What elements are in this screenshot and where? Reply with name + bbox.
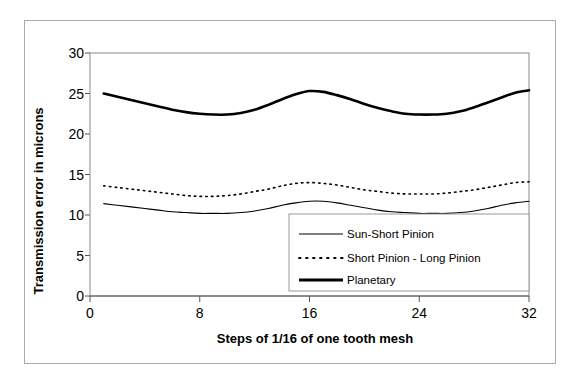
x-tick-label: 24 [411,305,427,321]
legend-label-sun-short-pinion: Sun-Short Pinion [347,228,434,240]
x-tick-label: 0 [86,305,94,321]
x-tick-label: 32 [521,305,537,321]
y-tick-label: 15 [68,167,84,183]
y-tick-marks [85,53,90,296]
y-tick-label: 20 [68,126,84,142]
y-tick-label: 5 [76,248,84,264]
series-line-planetary [104,90,529,114]
x-tick-labels: 0 8 16 24 32 [86,305,537,321]
y-tick-label: 30 [68,45,84,61]
figure-frame: Transmission error in microns Steps of 1… [24,20,556,364]
x-tick-label: 16 [302,305,318,321]
y-tick-label: 25 [68,86,84,102]
y-tick-label: 10 [68,207,84,223]
series-line-short-pinion-long-pinion [104,182,529,197]
x-tick-label: 8 [196,305,204,321]
y-tick-labels: 30 25 20 15 10 5 0 [68,45,84,304]
x-tick-marks [90,296,529,302]
legend-label-short-pinion-long-pinion: Short Pinion - Long Pinion [347,252,481,264]
y-tick-label: 0 [76,288,84,304]
chart-canvas: Transmission error in microns Steps of 1… [25,21,557,365]
series-line-sun-short-pinion [104,201,529,213]
y-axis-title: Transmission error in microns [31,107,46,294]
x-axis-title: Steps of 1/16 of one tooth mesh [217,331,414,346]
legend: Sun-Short Pinion Short Pinion - Long Pin… [289,214,529,291]
legend-label-planetary: Planetary [347,274,396,286]
series-group [104,90,529,213]
